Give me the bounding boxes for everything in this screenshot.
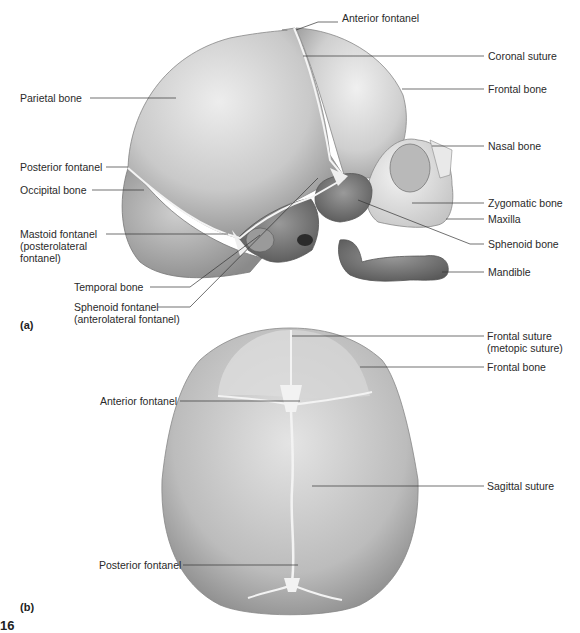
superior-skull: [162, 328, 418, 615]
label-parietal-bone: Parietal bone: [20, 92, 82, 104]
label-frontal-bone-b: Frontal bone: [487, 361, 546, 373]
label-zygomatic-bone: Zygomatic bone: [488, 197, 563, 209]
label-anterior-fontanel-b: Anterior fontanel: [100, 395, 177, 407]
panel-b-tag: (b): [20, 601, 34, 613]
label-posterior-fontanel: Posterior fontanel: [20, 161, 102, 173]
label-frontal-bone: Frontal bone: [488, 83, 547, 95]
label-anterior-fontanel: Anterior fontanel: [342, 12, 419, 24]
panel-a-tag: (a): [20, 319, 33, 331]
figure-number: 16: [0, 618, 14, 633]
label-sphenoid-bone: Sphenoid bone: [488, 238, 559, 250]
lateral-skull: [122, 28, 453, 281]
label-temporal-bone: Temporal bone: [74, 281, 143, 293]
label-mandible: Mandible: [488, 266, 531, 278]
label-sagittal-suture: Sagittal suture: [487, 480, 554, 492]
label-frontal-suture: Frontal suture (metopic suture): [487, 330, 580, 354]
label-nasal-bone: Nasal bone: [488, 140, 541, 152]
label-occipital-bone: Occipital bone: [20, 184, 87, 196]
label-maxilla: Maxilla: [488, 213, 521, 225]
label-mastoid-fontanel: Mastoid fontanel (posterolateral fontane…: [20, 228, 120, 264]
label-sphenoid-fontanel: Sphenoid fontanel (anterolateral fontane…: [74, 301, 224, 325]
label-posterior-fontanel-b: Posterior fontanel: [99, 559, 181, 571]
label-coronal-suture: Coronal suture: [488, 50, 557, 62]
